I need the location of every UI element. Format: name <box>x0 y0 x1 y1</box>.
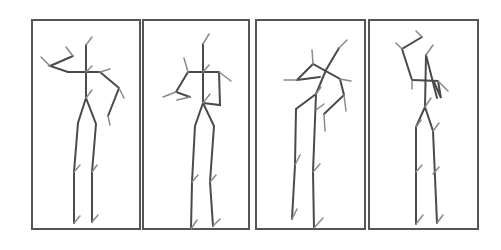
skeleton-1 <box>41 37 124 223</box>
skeleton-4 <box>396 31 448 224</box>
skeleton-2 <box>163 34 231 229</box>
skeleton-3 <box>284 40 351 228</box>
skeletons <box>0 0 501 250</box>
